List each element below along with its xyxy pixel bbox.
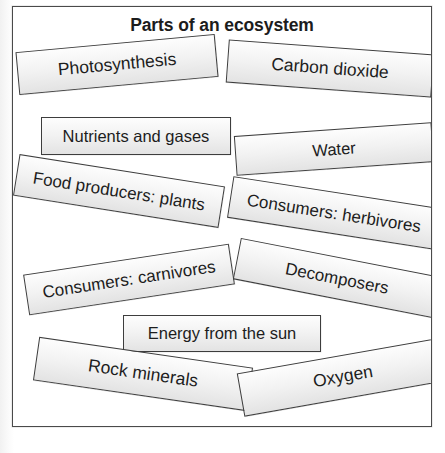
card-photosynthesis[interactable]: Photosynthesis bbox=[15, 34, 218, 95]
card-consumers-carnivores[interactable]: Consumers: carnivores bbox=[23, 244, 235, 316]
card-food-producers-plants[interactable]: Food producers: plants bbox=[13, 154, 225, 228]
card-label: Food producers: plants bbox=[26, 168, 212, 214]
card-water[interactable]: Water bbox=[234, 122, 432, 176]
card-carbon-dioxide[interactable]: Carbon dioxide bbox=[226, 40, 432, 98]
card-label: Rock minerals bbox=[81, 357, 205, 392]
page-title: Parts of an ecosystem bbox=[13, 15, 431, 36]
card-label: Nutrients and gases bbox=[57, 128, 216, 145]
card-consumers-herbivores[interactable]: Consumers: herbivores bbox=[227, 176, 432, 250]
card-decomposers[interactable]: Decomposers bbox=[233, 238, 432, 318]
card-label: Consumers: herbivores bbox=[240, 190, 428, 236]
ecosystem-diagram-frame: Parts of an ecosystem Photosynthesis Car… bbox=[12, 6, 432, 427]
card-label: Photosynthesis bbox=[51, 50, 183, 79]
card-label: Carbon dioxide bbox=[265, 55, 396, 82]
card-nutrients-and-gases[interactable]: Nutrients and gases bbox=[41, 117, 231, 155]
card-label: Decomposers bbox=[278, 259, 396, 298]
card-label: Water bbox=[306, 139, 362, 159]
card-label: Energy from the sun bbox=[142, 325, 303, 342]
card-label: Consumers: carnivores bbox=[35, 257, 222, 302]
card-energy-from-the-sun[interactable]: Energy from the sun bbox=[123, 315, 321, 352]
card-label: Oxygen bbox=[306, 362, 380, 392]
